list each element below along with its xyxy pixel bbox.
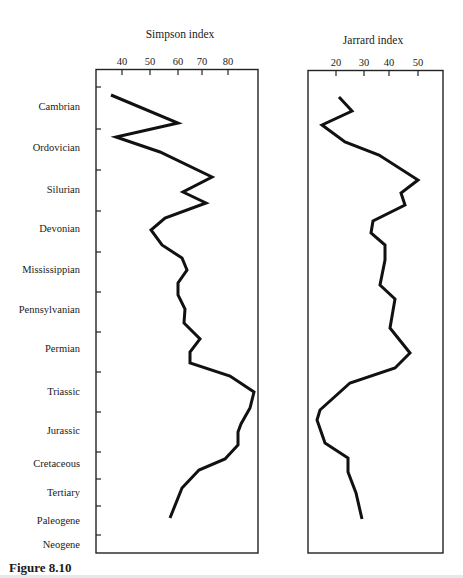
- jarrard-frame: [308, 71, 443, 554]
- jarrard-series-line: [317, 97, 418, 519]
- simpson-y-ticks: [96, 87, 101, 535]
- simpson-frame: [96, 70, 258, 554]
- figure-caption: Figure 8.10: [9, 560, 72, 576]
- simpson-series-line: [111, 95, 254, 518]
- chart-canvas: [0, 0, 463, 578]
